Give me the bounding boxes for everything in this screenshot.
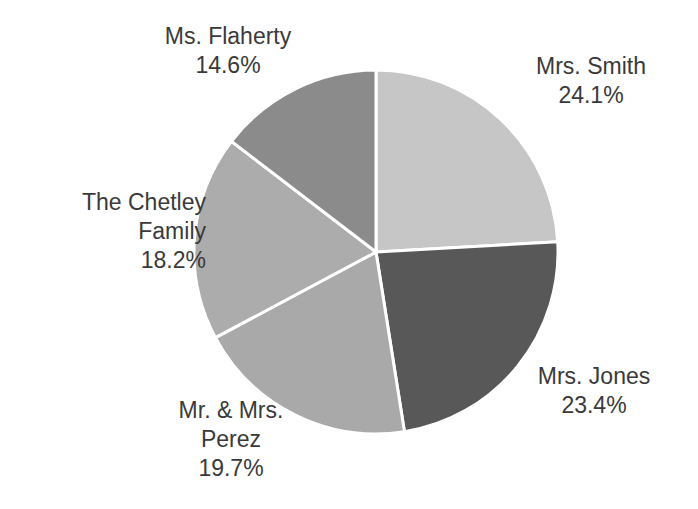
- pie-label-mrs-smith-name: Mrs. Smith: [488, 52, 694, 81]
- pie-label-the-chetley-family-name-line2: Family: [18, 217, 206, 246]
- pie-chart-figure: Ms. Flaherty 14.6% Mrs. Smith 24.1% Mrs.…: [0, 0, 698, 509]
- pie-label-mrs-smith-value: 24.1%: [488, 81, 694, 110]
- pie-label-mrs-jones-name: Mrs. Jones: [496, 362, 692, 391]
- pie-label-mr-mrs-perez-value: 19.7%: [130, 454, 332, 483]
- pie-label-the-chetley-family: The Chetley Family 18.2%: [18, 188, 206, 275]
- pie-label-mrs-jones: Mrs. Jones 23.4%: [496, 362, 692, 420]
- pie-label-mrs-smith: Mrs. Smith 24.1%: [488, 52, 694, 110]
- pie-label-mr-mrs-perez-name-line2: Perez: [130, 425, 332, 454]
- pie-label-ms-flaherty-value: 14.6%: [122, 51, 334, 80]
- pie-label-the-chetley-family-value: 18.2%: [18, 246, 206, 275]
- pie-label-mr-mrs-perez-name-line1: Mr. & Mrs.: [130, 396, 332, 425]
- pie-label-the-chetley-family-name-line1: The Chetley: [18, 188, 206, 217]
- pie-label-mr-mrs-perez: Mr. & Mrs. Perez 19.7%: [130, 396, 332, 483]
- pie-label-ms-flaherty-name: Ms. Flaherty: [122, 22, 334, 51]
- pie-label-ms-flaherty: Ms. Flaherty 14.6%: [122, 22, 334, 80]
- pie-label-mrs-jones-value: 23.4%: [496, 391, 692, 420]
